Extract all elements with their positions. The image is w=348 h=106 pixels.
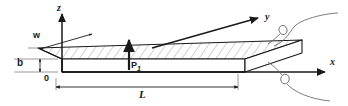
lower-support-callout [268, 62, 330, 101]
axis-label-y: y [265, 12, 269, 22]
axis-label-x: x [330, 57, 335, 67]
origin-label: 0 [44, 74, 49, 83]
axis-label-z: z [57, 3, 61, 13]
diagram-canvas [0, 0, 348, 106]
dimension-label-L: L [139, 89, 146, 100]
load-label: P1 [131, 61, 141, 72]
dimension-label-w: w [33, 31, 40, 40]
load-subscript: 1 [137, 65, 141, 72]
dimension-label-b: b [17, 58, 23, 68]
length-dimension-L [56, 74, 238, 90]
figure-container: z y x 0 w b L P1 [0, 0, 348, 106]
plate-front-face [62, 59, 245, 72]
